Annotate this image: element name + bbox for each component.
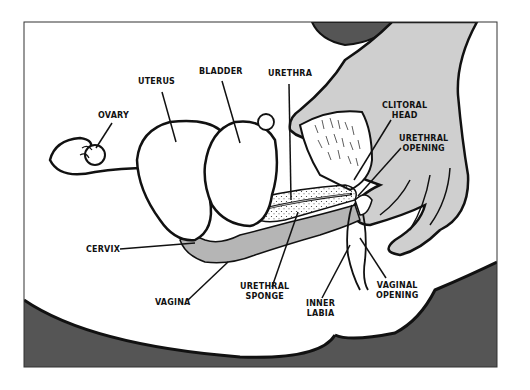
label-bladder: BLADDER <box>199 67 243 77</box>
label-clitoral-head: CLITORAL HEAD <box>382 101 427 121</box>
label-vagina: VAGINA <box>155 298 190 308</box>
label-uterus: UTERUS <box>138 77 175 87</box>
bladder-cap <box>258 114 274 130</box>
label-urethral-sponge: URETHRAL SPONGE <box>240 282 289 302</box>
ovary <box>85 145 105 165</box>
label-urethra: URETHRA <box>268 69 312 79</box>
label-inner-labia: INNER LABIA <box>306 299 335 319</box>
label-urethral-opening: URETHRAL OPENING <box>399 134 448 154</box>
label-ovary: OVARY <box>98 111 129 121</box>
label-cervix: CERVIX <box>86 245 120 255</box>
label-vaginal-opening: VAGINAL OPENING <box>376 281 418 301</box>
anatomy-diagram <box>0 0 530 390</box>
bladder <box>205 121 277 226</box>
